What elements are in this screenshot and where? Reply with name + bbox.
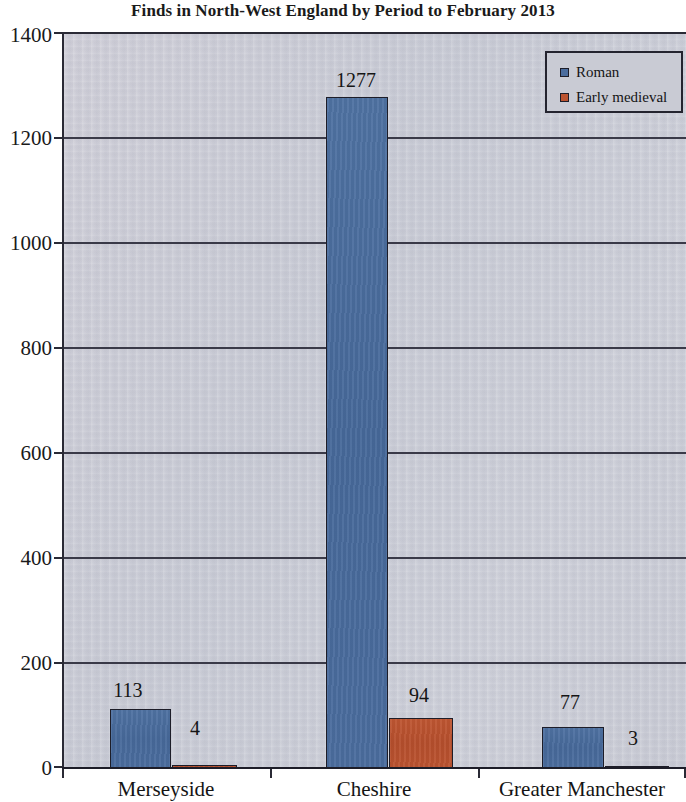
x-axis-label-cheshire: Cheshire	[270, 777, 478, 802]
legend-label-early-medieval: Early medieval	[576, 89, 667, 106]
x-axis-line	[62, 767, 686, 769]
value-label-merseyside-roman: 113	[78, 680, 178, 700]
plot-area	[62, 32, 686, 768]
y-tick-label-400: 400	[0, 548, 52, 569]
y-tick-label-800: 800	[0, 338, 52, 359]
bar-chart: Finds in North-West England by Period to…	[0, 0, 686, 802]
y-tick-label-200: 200	[0, 653, 52, 674]
y-tick-label-600: 600	[0, 443, 52, 464]
legend-swatch-early-medieval-icon	[560, 93, 569, 102]
value-label-greater-manchester-early-medieval: 3	[590, 728, 676, 748]
value-label-greater-manchester-roman: 77	[527, 692, 613, 712]
value-label-merseyside-early-medieval: 4	[152, 718, 238, 738]
chart-title: Finds in North-West England by Period to…	[0, 1, 686, 21]
value-label-cheshire-early-medieval: 94	[376, 685, 462, 705]
y-tick-label-0: 0	[0, 758, 52, 779]
y-tick-label-1200: 1200	[0, 128, 52, 149]
chart-legend: Roman Early medieval	[545, 51, 683, 113]
legend-item-early-medieval[interactable]: Early medieval	[560, 85, 681, 109]
legend-label-roman: Roman	[576, 64, 619, 81]
y-tick-label-1000: 1000	[0, 233, 52, 254]
legend-swatch-roman-icon	[560, 68, 569, 77]
x-axis-label-merseyside: Merseyside	[62, 777, 270, 802]
value-label-cheshire-roman: 1277	[304, 70, 408, 90]
x-axis-label-greater-manchester: Greater Manchester	[478, 777, 686, 802]
y-tick-label-1400: 1400	[0, 25, 52, 46]
legend-item-roman[interactable]: Roman	[560, 60, 681, 84]
bar-cheshire-roman[interactable]	[326, 97, 388, 768]
bar-cheshire-early-medieval[interactable]	[389, 718, 453, 768]
